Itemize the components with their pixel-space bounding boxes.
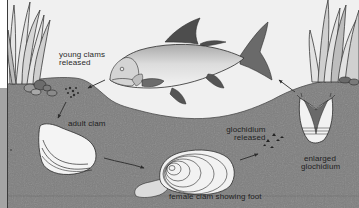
speck (10, 149, 12, 151)
label-enlarged-glochidium: enlarged glochidium (301, 155, 340, 171)
label-female-clam-showing-foot: female clam showing foot (169, 193, 262, 201)
left-margin-bottom (0, 88, 8, 208)
clam-life-cycle-diagram: young clams released adult clam glochidi… (0, 0, 359, 208)
label-adult-clam: adult clam (68, 120, 105, 128)
fish-eye (120, 67, 124, 71)
label-young-clams-released: young clams released (59, 51, 105, 67)
label-glochidium-released: glochidium released (224, 126, 266, 142)
diagram-canvas (0, 0, 359, 208)
left-margin-top (0, 0, 8, 88)
